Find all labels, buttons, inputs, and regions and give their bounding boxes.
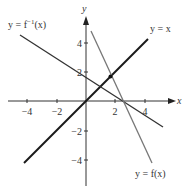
label-f: y = f(x) <box>135 168 166 180</box>
intersection-point <box>109 75 113 79</box>
x-tick-label: −4 <box>22 106 33 117</box>
y-axis-label: y <box>81 3 87 14</box>
y-tick-label: 4 <box>77 38 82 49</box>
label-f-inverse: y = f−1(x) <box>8 18 46 31</box>
x-axis-arrow-icon <box>168 98 176 104</box>
y-tick-label: −2 <box>71 126 82 137</box>
line-f <box>91 31 152 163</box>
y-axis-arrow-icon <box>83 16 89 25</box>
y-tick-label: −4 <box>71 155 82 166</box>
graph: −4 −2 2 4 4 2 −2 −4 y x y = x y = f(x) y… <box>0 0 183 186</box>
label-y-equals-x: y = x <box>150 23 171 34</box>
x-axis-label: x <box>176 95 182 106</box>
x-tick-label: −2 <box>52 106 63 117</box>
x-tick-label: 2 <box>113 106 118 117</box>
line-f-inverse <box>20 35 163 127</box>
